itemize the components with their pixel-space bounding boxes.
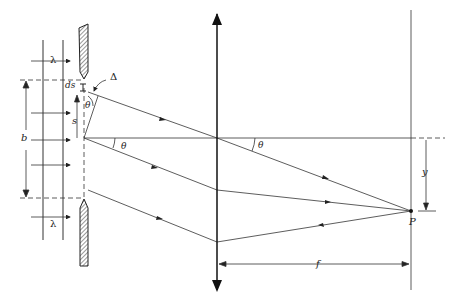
wavelength-label-top: λ	[50, 55, 56, 65]
slit-upper-jaw	[79, 24, 88, 79]
delta-label: Δ	[110, 72, 117, 82]
f-dimension	[219, 262, 409, 267]
theta-label-lens: θ	[258, 141, 263, 150]
converging-lens[interactable]	[212, 13, 222, 292]
s-label: s	[72, 116, 77, 126]
ray-arrowheads	[151, 117, 331, 227]
wavelength-label-bottom: λ	[50, 219, 56, 229]
P-label: P	[409, 217, 416, 227]
slit-width-b-dimension	[20, 80, 82, 198]
theta-label-slit: θ	[121, 142, 126, 151]
slit-lower-jaw	[80, 199, 88, 266]
theta-label-slit-small: θ	[85, 101, 90, 110]
f-label: f	[316, 259, 320, 269]
ds-element	[80, 84, 86, 91]
b-label: b	[21, 133, 27, 143]
point-P[interactable]	[409, 209, 413, 213]
delta-leader	[94, 80, 106, 91]
y-label: y	[422, 167, 428, 177]
diffraction-diagram	[0, 0, 457, 306]
ds-label: ds	[65, 81, 75, 90]
rays	[84, 92, 411, 242]
